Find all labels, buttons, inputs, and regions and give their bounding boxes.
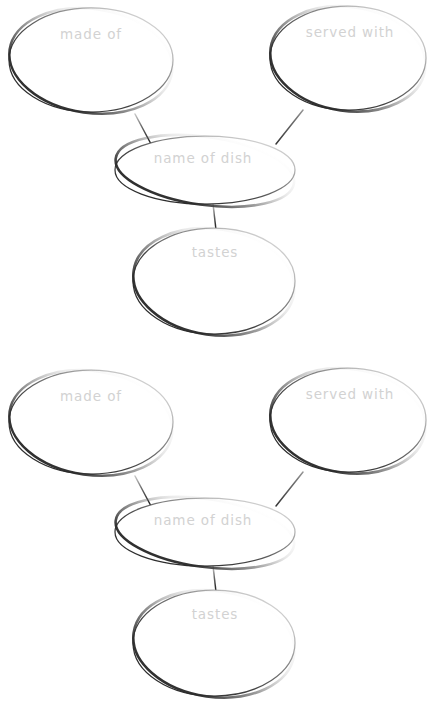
bubble-name-of-dish[interactable]: name of dish [111,125,299,217]
bubble-outline [270,6,426,110]
bubble-served-with[interactable]: served with [263,0,432,121]
connector-served-with-to-dish-line [276,110,303,144]
bubble-label-tastes: tastes [192,244,239,260]
bubble-label-served-with: served with [306,24,395,40]
concept-map-canvas: made ofserved withname of dishtastesmade… [0,0,442,724]
bubble-made-of[interactable]: made of [2,0,179,124]
concept-map-group: made ofserved withname of dishtastes [2,359,432,708]
bubble-label-served-with: served with [306,386,395,402]
bubble-label-made-of: made of [60,388,122,404]
bubble-label-tastes: tastes [192,606,239,622]
bubble-made-of[interactable]: made of [2,360,179,486]
bubble-tastes[interactable]: tastes [126,218,301,346]
concept-map-group: made ofserved withname of dishtastes [2,0,432,346]
bubble-outline [9,370,173,474]
bubble-served-with[interactable]: served with [263,359,432,484]
connector-dish-to-tastes-line [213,204,216,230]
worksheet-page: made ofserved withname of dishtastesmade… [0,0,442,724]
bubble-outline [115,498,295,566]
bubble-outline [115,136,295,204]
bubble-label-made-of: made of [60,26,122,42]
connector-dish-to-tastes-line [213,566,216,592]
bubble-name-of-dish[interactable]: name of dish [111,487,299,579]
connector-served-with-to-dish-line [276,472,303,506]
bubble-tastes[interactable]: tastes [126,580,301,708]
bubble-outline [9,8,173,112]
bubble-label-name-of-dish: name of dish [154,150,253,166]
bubble-label-name-of-dish: name of dish [154,512,253,528]
bubble-outline [270,368,426,472]
